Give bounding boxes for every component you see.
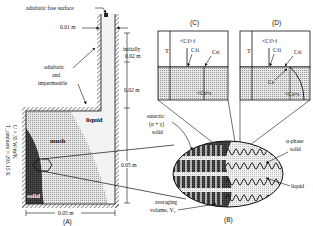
adiabatic-free-surface-label: adiabatic free surface	[26, 5, 74, 11]
averaging-volume-label-1: averaging	[155, 199, 177, 205]
panel-d-liquid-avg-conc: <Cℓ>ℓ	[262, 38, 278, 44]
panel-b-caption: (B)	[224, 216, 233, 224]
panel-c-caption: (C)	[190, 19, 199, 27]
panel-c: (C) T <Cℓ>ℓ Cℓi Csi <Cs>s	[158, 19, 228, 100]
riser-width-label: 0.01 m	[60, 24, 76, 30]
wall-label-3: impermeable	[38, 80, 68, 86]
panel-c-temperature: T	[165, 47, 169, 54]
initial-height-label: 0.02 m	[125, 53, 141, 59]
alpha-phase-label-1: α-phase	[286, 138, 304, 144]
panel-d-temperature: T	[247, 47, 251, 54]
alpha-phase-label-2: solid	[290, 146, 301, 152]
free-surface-marker	[104, 13, 108, 17]
liquid-label-b: liquid	[291, 183, 304, 189]
panel-d-solid-interface-conc: Csi	[294, 49, 302, 55]
panel-d-solid-conc: Cs	[268, 79, 274, 85]
panel-a-caption: (A)	[63, 218, 72, 226]
riser-height-label: 0.02 m	[124, 87, 140, 93]
eutectic-label-2: (α + γ)	[149, 121, 164, 128]
wall-label-2: and	[52, 72, 60, 78]
panel-b-ellipse	[170, 140, 290, 210]
wall-label-1: adiabatic	[44, 64, 65, 70]
panel-d: (D) T <Cℓ>ℓ Cℓi Csi Cs <Cs>s	[240, 19, 310, 100]
panel-d-caption: (D)	[272, 19, 281, 27]
panel-c-solid-avg-conc: <Cs>s	[197, 90, 211, 96]
panel-c-solid-interface-conc: Csi	[212, 49, 220, 55]
solidification-diagram: adiabatic free surface 0.01 m initially …	[0, 0, 313, 226]
mush-region-label: mush	[50, 137, 66, 144]
panel-c-liquid-avg-conc: <Cℓ>ℓ	[180, 38, 196, 44]
averaging-volume-label-2: volume, V₀	[150, 207, 176, 213]
cavity-width-label: 0.05 m	[58, 210, 74, 216]
heat-transfer-coefficient-label: U = 35 W/m²K	[12, 125, 18, 159]
panel-d-solid-avg-conc: <Cs>s	[285, 91, 299, 97]
eutectic-label-3: solid	[152, 129, 163, 135]
panel-d-liquid-interface-conc: Cℓi	[273, 47, 281, 53]
ambient-temperature-label: T_ambient = 293.15 K	[5, 125, 11, 176]
solid-region-label: solid	[27, 192, 41, 199]
liquid-region-label: liquid	[86, 116, 103, 123]
initially-label: initially	[123, 46, 141, 52]
panel-c-liquid-interface-conc: Cℓi	[191, 47, 199, 53]
cavity-height-label: 0.05 m	[121, 162, 137, 168]
eutectic-label-1: eutectic	[147, 113, 165, 119]
